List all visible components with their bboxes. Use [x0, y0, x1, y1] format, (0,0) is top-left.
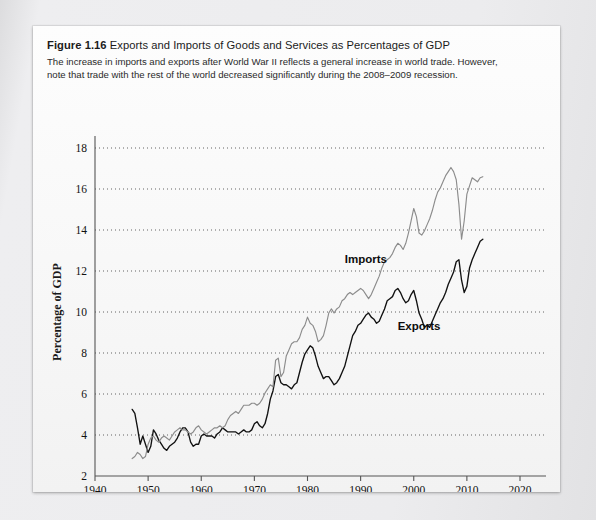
- y-tick-labels: 24681012141618: [76, 142, 88, 482]
- figure-card: Figure 1.16 Exports and Imports of Goods…: [33, 26, 560, 492]
- line-chart: 24681012141618 1940195019601970198019902…: [33, 104, 560, 492]
- x-tick-label: 2020: [509, 484, 532, 492]
- series-label-imports: Imports: [345, 253, 387, 265]
- y-tick-label: 2: [81, 470, 87, 482]
- figure-caption: Figure 1.16 Exports and Imports of Goods…: [47, 39, 539, 81]
- series-label-exports: Exports: [398, 320, 441, 332]
- series-annotations: ImportsExports: [345, 253, 441, 333]
- x-tick-marks: [95, 476, 520, 481]
- x-tick-label: 1950: [137, 484, 160, 492]
- y-tick-label: 16: [76, 183, 88, 195]
- x-tick-label: 1970: [243, 484, 266, 492]
- x-tick-label: 1960: [190, 484, 213, 492]
- x-tick-labels: 194019501960197019801990200020102020: [84, 484, 532, 492]
- x-tick-label: 1990: [349, 484, 372, 492]
- y-tick-label: 18: [76, 142, 88, 154]
- y-tick-label: 14: [76, 224, 88, 236]
- y-tick-label: 12: [76, 265, 88, 277]
- x-tick-label: 1980: [296, 484, 319, 492]
- series-line-imports: [132, 167, 483, 458]
- grid-lines: [95, 148, 546, 435]
- figure-heading: Figure 1.16 Exports and Imports of Goods…: [47, 39, 539, 51]
- y-tick-label: 4: [81, 429, 87, 441]
- page-background: Figure 1.16 Exports and Imports of Goods…: [0, 0, 596, 520]
- series-paths: [132, 167, 483, 458]
- y-tick-label: 10: [76, 306, 88, 318]
- figure-number: Figure 1.16: [47, 39, 107, 51]
- axis-lines: [95, 136, 546, 476]
- y-axis-title: Percentage of GDP: [50, 263, 64, 361]
- y-tick-label: 8: [81, 347, 87, 359]
- x-tick-label: 2000: [402, 484, 425, 492]
- chart-container: 24681012141618 1940195019601970198019902…: [33, 104, 560, 492]
- x-tick-label: 2010: [455, 484, 478, 492]
- figure-title: Exports and Imports of Goods and Service…: [110, 39, 450, 51]
- x-tick-label: 1940: [84, 484, 107, 492]
- axis-titles: YearPercentage of GDP: [50, 263, 326, 492]
- y-tick-label: 6: [81, 388, 87, 400]
- figure-description: The increase in imports and exports afte…: [47, 56, 517, 81]
